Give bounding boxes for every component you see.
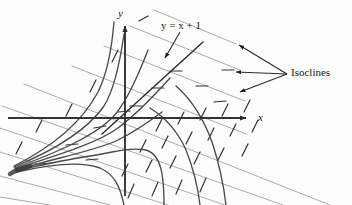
isoclines-group <box>0 10 330 205</box>
isocline <box>2 106 283 205</box>
slope-mark <box>112 50 118 62</box>
slope-mark <box>186 132 192 144</box>
slope-mark <box>156 119 162 131</box>
slope-mark <box>162 136 168 148</box>
slope-mark <box>214 101 226 102</box>
y-axis-label: y <box>118 8 123 19</box>
slope-mark <box>244 100 250 112</box>
isocline <box>0 197 50 205</box>
isocline <box>130 26 240 70</box>
slope-mark <box>176 180 182 194</box>
x-axis-label: x <box>258 112 263 123</box>
slope-mark <box>16 142 22 154</box>
isocline <box>0 176 110 205</box>
slope-mark <box>152 182 158 196</box>
slope-mark <box>86 159 98 160</box>
solution-curve <box>14 22 114 166</box>
slope-mark <box>118 111 130 112</box>
nullcline-equation-label: y = x + 1 <box>161 20 201 31</box>
slope-mark <box>66 104 72 116</box>
slope-mark <box>200 178 206 192</box>
isocline-leader-arrows <box>236 45 287 92</box>
slope-mark <box>218 148 224 160</box>
solution-curve <box>150 108 200 205</box>
isocline-leader-arrow <box>240 74 287 92</box>
slope-mark <box>242 144 248 156</box>
isoclines-label: Isoclines <box>291 67 330 78</box>
slope-mark <box>90 80 96 92</box>
solution-curve <box>14 34 124 167</box>
slope-mark <box>222 104 228 116</box>
isocline-leader-arrow <box>239 45 287 74</box>
slope-mark <box>194 152 200 164</box>
slope-marks-group <box>16 16 258 198</box>
slope-mark <box>139 16 148 21</box>
isocline-leader-arrow <box>236 72 287 74</box>
slope-mark <box>36 120 42 132</box>
slope-mark <box>128 184 134 198</box>
slope-mark <box>146 160 152 172</box>
